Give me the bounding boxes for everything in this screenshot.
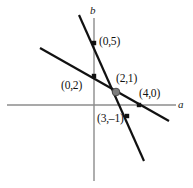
coordinate-geometry-figure: a b (0,5) (0,2) (2,1) (4,0) (3,–1) xyxy=(0,0,193,188)
point-label-4-0: (4,0) xyxy=(139,88,160,100)
marker-point-0-5 xyxy=(92,41,96,45)
axis-label-a: a xyxy=(178,99,184,110)
marker-point-4-0 xyxy=(137,103,141,107)
marker-point-3-minus1 xyxy=(125,114,129,118)
point-label-3-minus1: (3,–1) xyxy=(97,113,124,125)
point-label-2-1: (2,1) xyxy=(116,73,137,85)
marker-point-0-2 xyxy=(92,74,96,78)
marker-point-2-1 xyxy=(112,88,120,96)
point-label-0-5: (0,5) xyxy=(99,36,120,48)
shallow-line xyxy=(40,48,169,121)
axis-label-b: b xyxy=(90,5,96,16)
figure-canvas xyxy=(0,0,193,188)
point-label-0-2: (0,2) xyxy=(61,80,82,92)
